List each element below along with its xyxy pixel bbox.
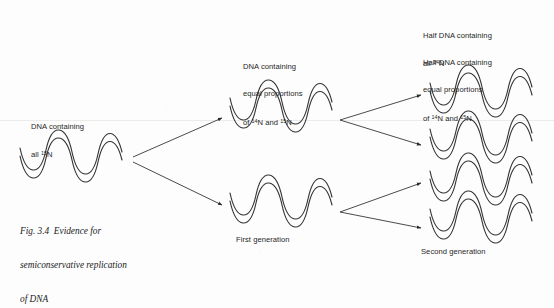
- figure-caption: Fig. 3.4 Evidence for semiconservative r…: [20, 203, 127, 308]
- label-first-generation: First generation: [236, 235, 290, 244]
- label-second-gen-equal-proportions: Half DNA containing equal proportions of…: [423, 39, 492, 142]
- second-gen-helix-4: [430, 191, 532, 243]
- figure-caption-line3: of DNA: [20, 294, 127, 305]
- label-secondgen-b-line1: Half DNA containing: [423, 58, 492, 67]
- figure-caption-line1: Fig. 3.4 Evidence for: [20, 226, 127, 237]
- label-parent-line1: DNA containing: [31, 122, 84, 131]
- arrow-firstgen-top-to-secondgen-2: [340, 120, 421, 145]
- arrow-firstgen-top-to-secondgen-1: [340, 95, 421, 120]
- arrow-parent-to-firstgen-bottom: [133, 162, 222, 205]
- arrow-parent-to-firstgen-top: [133, 118, 222, 157]
- label-second-generation: Second generation: [421, 247, 486, 256]
- arrow-firstgen-bottom-to-secondgen-4: [340, 212, 421, 228]
- label-parent-line2: all 15N: [31, 149, 84, 159]
- label-firstgen-line2: equal proportions: [243, 89, 303, 98]
- label-secondgen-b-line3: of 14N and 15N: [423, 113, 492, 123]
- first-gen-helix-bottom: [230, 175, 332, 227]
- label-first-gen-dna: DNA containing equal proportions of 14N …: [243, 43, 303, 146]
- label-firstgen-line3: of 14N and 15N: [243, 117, 303, 127]
- label-firstgen-line1: DNA containing: [243, 62, 303, 71]
- second-gen-helix-3: [430, 153, 532, 205]
- figure-caption-line2: semiconservative replication: [20, 260, 127, 271]
- arrow-firstgen-bottom-to-secondgen-3: [340, 183, 421, 212]
- label-parent-dna: DNA containing all 15N: [31, 103, 84, 178]
- label-secondgen-b-line2: equal proportions: [423, 85, 492, 94]
